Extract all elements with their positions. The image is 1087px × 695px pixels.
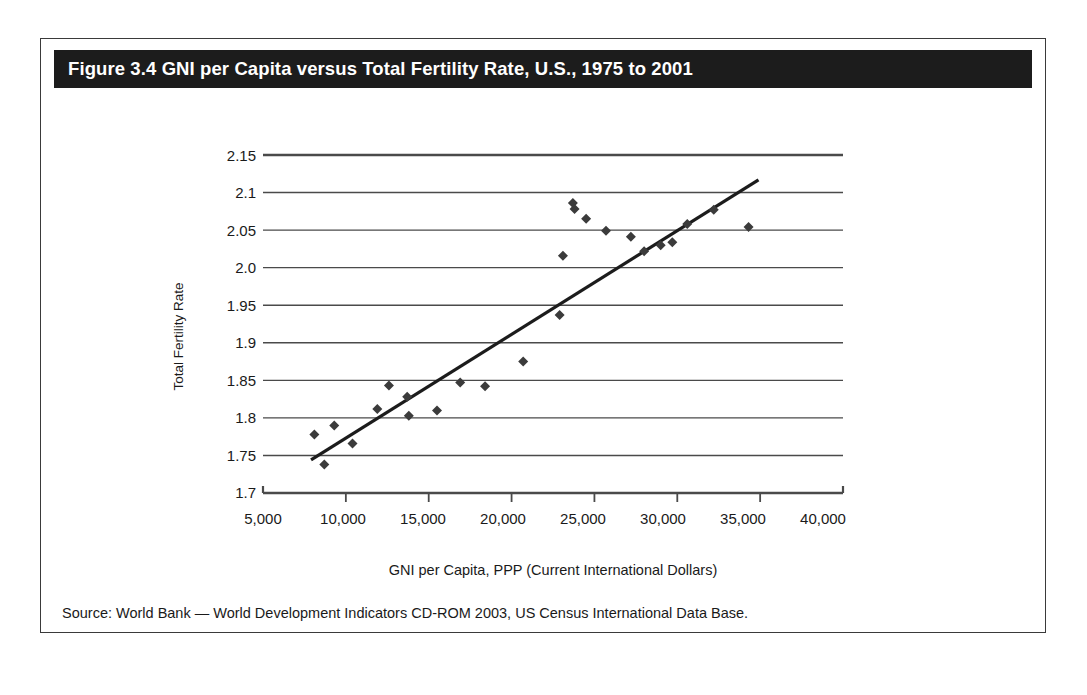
figure-border	[40, 38, 1046, 633]
y-tick-label-1.85: 1.85	[200, 373, 256, 388]
y-tick-label-2.0: 2.0	[200, 260, 256, 275]
y-tick-label-2.15: 2.15	[200, 148, 256, 163]
y-tick-label-1.8: 1.8	[200, 410, 256, 425]
x-tick-label-20000: 20,000	[458, 511, 548, 526]
y-tick-label-1.9: 1.9	[200, 335, 256, 350]
x-tick-label-30000: 30,000	[618, 511, 708, 526]
source-note: Source: World Bank — World Development I…	[62, 605, 1022, 621]
x-axis-title: GNI per Capita, PPP (Current Internation…	[233, 562, 873, 578]
x-tick-label-5000: 5,000	[218, 511, 308, 526]
figure-page: Figure 3.4 GNI per Capita versus Total F…	[0, 0, 1087, 695]
y-tick-label-2.05: 2.05	[200, 223, 256, 238]
y-tick-label-1.95: 1.95	[200, 298, 256, 313]
page-title: Figure 3.4 GNI per Capita versus Total F…	[54, 58, 693, 80]
y-tick-label-2.1: 2.1	[200, 185, 256, 200]
figure-title-banner: Figure 3.4 GNI per Capita versus Total F…	[54, 50, 1032, 88]
y-axis-title: Total Fertility Rate	[168, 236, 188, 436]
y-tick-label-1.7: 1.7	[200, 485, 256, 500]
x-tick-label-40000: 40,000	[778, 511, 868, 526]
x-tick-label-10000: 10,000	[298, 511, 388, 526]
x-tick-label-25000: 25,000	[538, 511, 628, 526]
x-tick-label-15000: 15,000	[378, 511, 468, 526]
y-axis-title-text: Total Fertility Rate	[171, 282, 186, 390]
x-tick-label-35000: 35,000	[698, 511, 788, 526]
y-tick-label-1.75: 1.75	[200, 448, 256, 463]
